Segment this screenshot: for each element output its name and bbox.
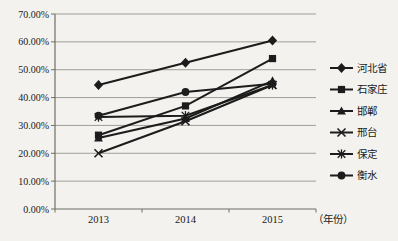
chart-canvas: 0.00%10.00%20.00%30.00%40.00%50.00%60.00… (0, 0, 398, 241)
diamond-marker-icon (268, 35, 277, 45)
y-tick-label: 60.00% (18, 36, 49, 47)
legend-label: 邯郸 (357, 105, 377, 117)
line-chart: 0.00%10.00%20.00%30.00%40.00%50.00%60.00… (0, 0, 398, 241)
y-tick-label: 40.00% (18, 92, 49, 103)
y-tick-label: 30.00% (18, 120, 49, 131)
y-tick-label: 20.00% (18, 148, 49, 159)
y-tick-label: 10.00% (18, 176, 49, 187)
legend-item: 石家庄 (330, 83, 387, 95)
circle-marker-icon (95, 112, 103, 120)
x-tick-label: 2013 (88, 214, 109, 225)
circle-marker-icon (269, 80, 277, 88)
legend-label: 保定 (357, 148, 378, 160)
legend-item: 衡水 (330, 170, 378, 181)
square-marker-icon (269, 55, 276, 62)
y-tick-label: 50.00% (18, 64, 49, 75)
x-axis-unit-label: （年份） (313, 213, 353, 225)
square-marker-icon (182, 102, 189, 109)
legend-label: 邢台 (357, 126, 377, 138)
legend-item: 邢台 (330, 126, 377, 138)
y-tick-label: 0.00% (23, 204, 49, 215)
diamond-marker-icon (181, 58, 190, 68)
circle-marker-icon (182, 88, 190, 96)
square-marker-icon (338, 86, 345, 93)
circle-marker-icon (338, 172, 346, 180)
diamond-marker-icon (94, 80, 103, 90)
legend-label: 河北省 (357, 62, 387, 74)
x-tick-label: 2014 (175, 214, 197, 225)
legend-item: 河北省 (330, 62, 387, 74)
legend-item: 邯郸 (330, 105, 377, 117)
series-0 (94, 35, 277, 90)
x-tick-label: 2015 (262, 214, 283, 225)
legend-label: 石家庄 (357, 83, 387, 95)
legend-label: 衡水 (357, 170, 378, 181)
legend-item: 保定 (330, 148, 378, 160)
y-tick-label: 70.00% (18, 9, 49, 20)
diamond-marker-icon (337, 63, 346, 73)
